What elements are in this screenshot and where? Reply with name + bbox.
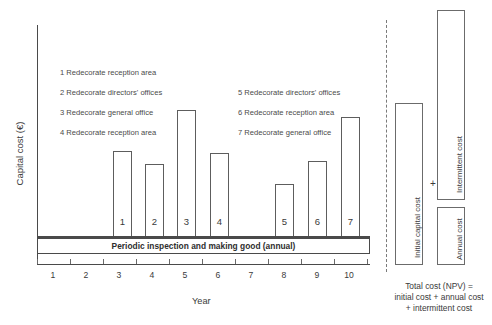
figure-canvas: Capital cost (€) 1 Redecorate reception … (0, 0, 492, 325)
x-tick-label-9: 9 (310, 270, 324, 280)
x-tick-label-7: 7 (244, 270, 258, 280)
x-tick-label-6: 6 (211, 270, 225, 280)
npv-caption-line-2: initial cost + annual cost (386, 292, 492, 303)
bar-number-4: 4 (210, 216, 229, 227)
npv-caption-line-3: + intermittent cost (386, 303, 492, 314)
x-tick-label-1: 1 (46, 270, 60, 280)
capital-cost-bar-chart: Capital cost (€) 1 Redecorate reception … (0, 0, 380, 325)
legend-item-1: 1 Redecorate reception area (60, 69, 156, 77)
y-axis-title: Capital cost (€) (14, 104, 25, 204)
legend-item-3: 3 Redecorate general office (60, 109, 153, 117)
periodic-inspection-label: Periodic inspection and making good (ann… (112, 241, 296, 251)
x-tick-label-8: 8 (277, 270, 291, 280)
x-tick-label-4: 4 (145, 270, 159, 280)
legend-item-2: 2 Redecorate directors' offices (60, 89, 162, 97)
npv-label-intermittent-cost: Intermittent cost (455, 136, 464, 193)
bar-5 (275, 184, 294, 237)
legend-item-5: 5 Redecorate directors' offices (238, 89, 340, 97)
plus-operator: + (430, 178, 436, 189)
legend-item-6: 6 Redecorate reception area (238, 109, 334, 117)
npv-summary-panel: Initial capital cost + Intermittent cost… (386, 0, 492, 325)
legend-item-4: 4 Redecorate reception area (60, 129, 156, 137)
x-tick-label-2: 2 (79, 270, 93, 280)
bar-number-5: 5 (275, 216, 294, 227)
x-tick-label-10: 10 (342, 270, 356, 280)
bar-number-3: 3 (177, 216, 196, 227)
x-axis-title: Year (192, 296, 211, 306)
bar-number-1: 1 (113, 216, 132, 227)
legend-item-7: 7 Redecorate general office (238, 129, 331, 137)
y-axis-line (37, 25, 38, 265)
bar-number-2: 2 (145, 216, 164, 227)
bar-number-6: 6 (308, 216, 327, 227)
x-tick-label-3: 3 (112, 270, 126, 280)
x-tick-label-5: 5 (178, 270, 192, 280)
npv-caption: Total cost (NPV) = initial cost + annual… (386, 281, 492, 314)
x-axis-line (37, 264, 370, 265)
bar-number-7: 7 (341, 216, 360, 227)
npv-caption-line-1: Total cost (NPV) = (386, 281, 492, 292)
npv-label-annual-cost: Annual cost (455, 218, 464, 260)
npv-label-initial-capital-cost: Initial capital cost (413, 197, 422, 258)
periodic-inspection-band: Periodic inspection and making good (ann… (37, 238, 370, 254)
